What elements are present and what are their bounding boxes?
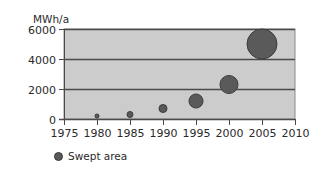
data-bubble [159,105,167,113]
data-bubble [247,29,277,59]
y-axis-unit: MWh/a [33,13,69,25]
x-tick-label: 1980 [84,127,112,140]
x-tick-label: 1975 [51,127,79,140]
bubble-chart: 0200040006000197519801985199019952000200… [0,0,321,173]
data-bubble [127,112,133,118]
legend: Swept area [54,150,127,162]
x-tick-label: 2000 [216,127,244,140]
y-tick-label: 4000 [28,54,56,67]
legend-label: Swept area [68,150,127,162]
data-bubble [189,94,203,108]
y-tick-label: 0 [49,114,56,127]
x-tick-label: 1985 [117,127,145,140]
x-tick-label: 1995 [183,127,211,140]
data-bubble [95,114,99,118]
x-tick-label: 2010 [282,127,310,140]
y-tick-label: 6000 [28,24,56,37]
y-tick-label: 2000 [28,84,56,97]
data-bubble [220,76,238,94]
x-tick-label: 1990 [150,127,178,140]
legend-swatch-icon [54,152,63,161]
x-tick-label: 2005 [249,127,277,140]
